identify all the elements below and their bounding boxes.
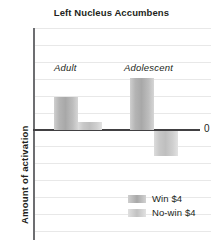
gridline [33,79,211,80]
legend-swatch-nowin-icon [128,209,146,217]
chart-title: Left Nucleus Accumbens [0,7,223,19]
legend-label-nowin: No-win $4 [152,207,196,218]
legend-label-win: Win $4 [152,193,182,204]
bar-adult-win [54,97,78,130]
legend-item-nowin: No-win $4 [128,206,220,219]
bar-adolescent-nowin [154,131,178,156]
y-axis-label: Amount of activation [19,126,30,224]
zero-tick-label: 0 [204,123,210,134]
gridline [33,146,211,147]
bar-adolescent-win [130,78,154,130]
chart-figure: Left Nucleus Accumbens Amount of activat… [0,0,223,247]
gridline [33,28,211,29]
gridline [33,45,211,46]
y-axis-label-container: Amount of activation [2,28,24,240]
gridline [33,231,211,232]
legend-swatch-win-icon [128,195,146,203]
group-label-adult: Adult [54,62,77,73]
gridline [33,163,211,164]
legend-item-win: Win $4 [128,192,220,205]
y-axis-line [33,28,35,240]
group-label-adolescent: Adolescent [124,62,173,73]
gridline [33,180,211,181]
bar-adult-nowin [78,122,102,130]
chart-legend: Win $4 No-win $4 [128,192,220,220]
